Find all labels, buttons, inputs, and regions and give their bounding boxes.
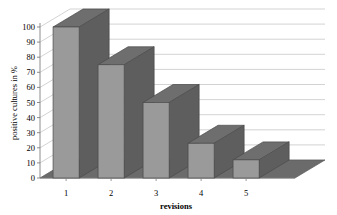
x-tick-label: 5: [244, 188, 248, 198]
y-tick-label: 0: [31, 173, 35, 183]
y-tick-label: 40: [27, 113, 36, 123]
bar-front-face: [98, 65, 124, 178]
y-tick-label: 60: [27, 82, 36, 92]
y-tick-label: 50: [27, 98, 36, 108]
y-tick-label: 90: [27, 37, 36, 47]
chart-container: 0102030405060708090100 12345 positive cu…: [0, 0, 337, 215]
bar-chart-3d: 0102030405060708090100 12345 positive cu…: [0, 0, 337, 215]
y-axis-title: positive cultures in %: [9, 66, 19, 140]
bar-front-face: [188, 143, 214, 178]
bar-front-face: [53, 27, 79, 178]
x-tick-label: 3: [154, 188, 158, 198]
x-tick-label: 4: [199, 188, 204, 198]
x-tick-label: 1: [64, 188, 68, 198]
x-tick-label: 2: [109, 188, 113, 198]
bar-front-face: [233, 160, 259, 178]
x-axis-title: revisions: [160, 201, 193, 211]
y-tick-label: 70: [27, 67, 36, 77]
y-tick-label: 10: [27, 158, 36, 168]
y-tick-label: 100: [22, 22, 35, 32]
bar-front-face: [143, 103, 169, 179]
y-tick-label: 30: [27, 128, 36, 138]
y-tick-label: 80: [27, 52, 36, 62]
y-tick-label: 20: [27, 143, 36, 153]
